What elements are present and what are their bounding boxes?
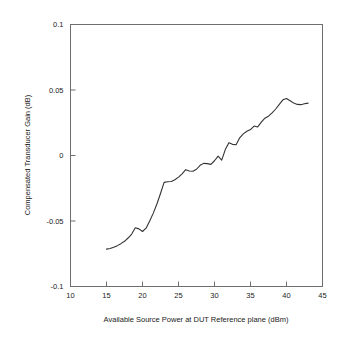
y-tick-label: -0.1: [51, 282, 64, 291]
y-axis-tick-labels: -0.1-0.0500.050.1: [46, 20, 63, 291]
y-tick-label: 0.1: [53, 20, 63, 29]
x-tick-label: 30: [210, 291, 218, 300]
line-chart-canvas: -0.1-0.0500.050.1 1015202530354045 Avail…: [0, 0, 361, 338]
x-axis-title: Available Source Power at DUT Reference …: [104, 315, 289, 324]
x-tick-label: 25: [174, 291, 182, 300]
data-line-compensated-transducer-gain: [107, 99, 309, 250]
x-tick-label: 40: [282, 291, 290, 300]
data-series-group: [107, 99, 309, 250]
x-tick-label: 35: [246, 291, 254, 300]
x-tick-label: 15: [102, 291, 110, 300]
chart-figure: -0.1-0.0500.050.1 1015202530354045 Avail…: [0, 0, 361, 338]
y-tick-label: -0.05: [46, 217, 63, 226]
y-tick-label: 0: [59, 151, 63, 160]
x-axis-tick-labels: 1015202530354045: [66, 291, 326, 300]
y-tick-label: 0.05: [49, 86, 64, 95]
x-axis-tick-marks: [71, 282, 323, 287]
plot-frame: [71, 25, 323, 287]
y-axis-title: Compensated Transducer Gain (dB): [23, 94, 32, 215]
y-axis-tick-marks: [71, 25, 76, 287]
x-tick-label: 10: [66, 291, 74, 300]
x-tick-label: 45: [318, 291, 326, 300]
x-tick-label: 20: [138, 291, 146, 300]
